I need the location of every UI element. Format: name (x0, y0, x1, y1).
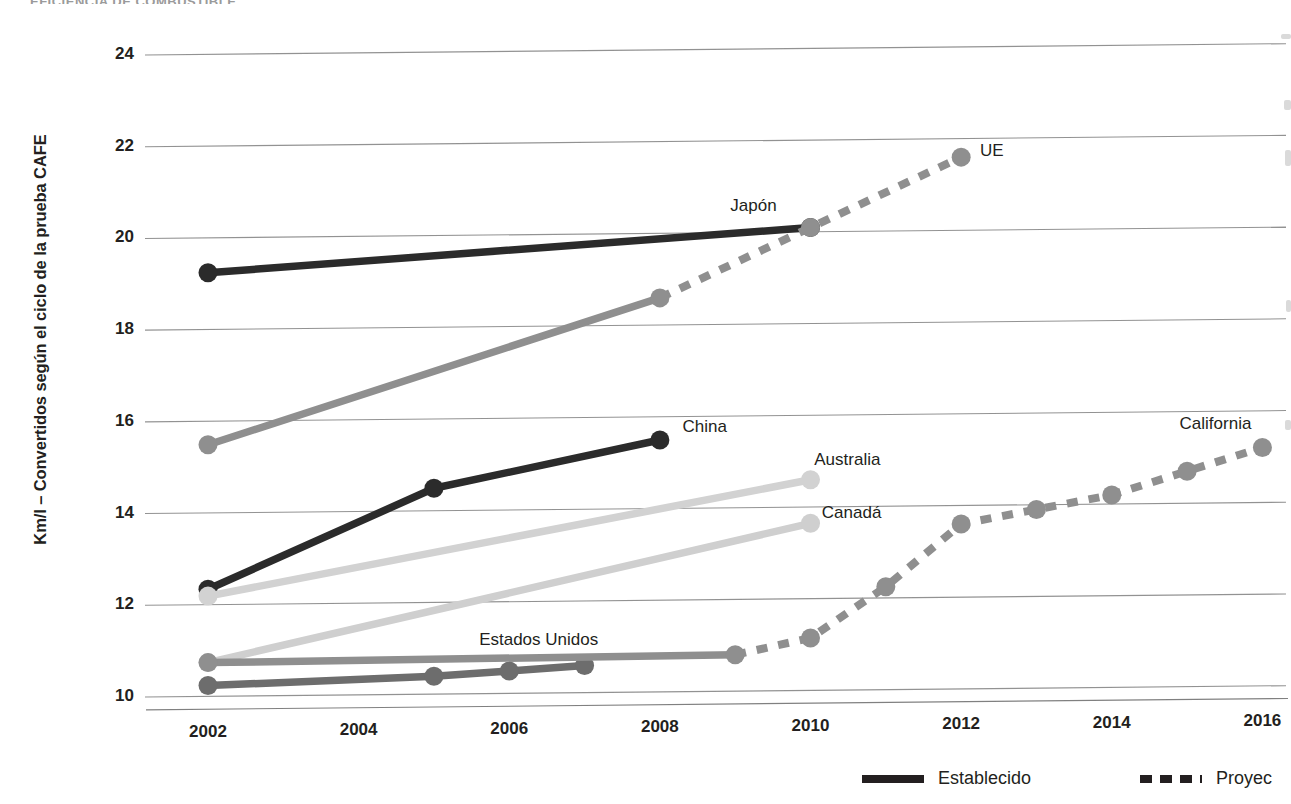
data-point-marker (952, 515, 971, 534)
x-axis-line (146, 699, 1288, 710)
data-point-marker (199, 435, 218, 454)
data-point-marker (199, 676, 218, 695)
data-point-marker (801, 628, 820, 647)
data-point-marker (1178, 462, 1197, 481)
data-point-marker (650, 431, 669, 450)
legend-solid-swatch (862, 775, 924, 783)
data-point-marker (424, 667, 443, 686)
y-tick-label: 10 (88, 686, 134, 706)
legend-dashed-swatch (1140, 775, 1202, 783)
data-point-marker (1253, 438, 1272, 457)
data-point-marker (199, 587, 218, 606)
gridline (145, 319, 1286, 330)
data-point-marker (1027, 500, 1046, 519)
data-point-marker (199, 653, 218, 672)
data-point-marker (1102, 485, 1121, 504)
series-label-australia: Australia (814, 450, 880, 470)
legend-item-established: Establecido (862, 768, 1031, 789)
gridline (145, 135, 1286, 146)
data-point-marker (199, 263, 218, 282)
series-line-solid (208, 298, 660, 445)
legend-item-projected: Proyec (1140, 768, 1272, 789)
data-point-marker (650, 288, 669, 307)
chart-plot-area (0, 0, 1291, 804)
series-line-solid (208, 480, 811, 596)
y-tick-label: 16 (88, 411, 134, 431)
x-tick-label: 2008 (615, 717, 705, 737)
y-tick-label: 24 (88, 44, 134, 64)
x-tick-label: 2012 (916, 714, 1006, 734)
x-tick-label: 2006 (464, 719, 554, 739)
gridlines (145, 44, 1286, 697)
x-tick-label: 2014 (1067, 713, 1157, 733)
y-tick-label: 18 (88, 319, 134, 339)
x-tick-label: 2010 (766, 716, 856, 736)
x-tick-label: 2004 (314, 720, 404, 740)
gridline (145, 44, 1286, 55)
y-tick-label: 22 (88, 136, 134, 156)
y-tick-label: 14 (88, 503, 134, 523)
data-point-marker (424, 479, 443, 498)
chart-root: EFICIENCIA DE COMBUSTIBLE Km/l – Convert… (0, 0, 1291, 804)
y-tick-label: 20 (88, 227, 134, 247)
series-label-ue: UE (980, 141, 1004, 161)
gridline (145, 502, 1286, 513)
data-point-marker (876, 577, 895, 596)
x-tick-label: 2016 (1217, 711, 1291, 731)
data-point-marker (726, 645, 745, 664)
series-line-solid (208, 655, 735, 663)
gridline (145, 594, 1286, 605)
series-line-solid (208, 666, 585, 686)
x-tick-label: 2002 (163, 722, 253, 742)
series-label-california: California (1180, 414, 1252, 434)
series-layer (199, 148, 1272, 695)
series-label-china: China (682, 417, 726, 437)
series-label-estados-unidos: Estados Unidos (479, 630, 598, 650)
series-label-canadá: Canadá (822, 503, 882, 523)
data-point-marker (801, 218, 820, 237)
series-line-solid (208, 440, 660, 589)
series-label-japón: Japón (0, 196, 777, 216)
data-point-marker (500, 661, 519, 680)
data-point-marker (952, 148, 971, 167)
legend-label-established: Establecido (938, 768, 1031, 789)
chart-legend: Establecido Proyec (0, 764, 1291, 798)
y-tick-label: 12 (88, 594, 134, 614)
data-point-marker (801, 514, 820, 533)
data-point-marker (801, 470, 820, 489)
legend-label-projected: Proyec (1216, 768, 1272, 789)
gridline (145, 686, 1286, 697)
